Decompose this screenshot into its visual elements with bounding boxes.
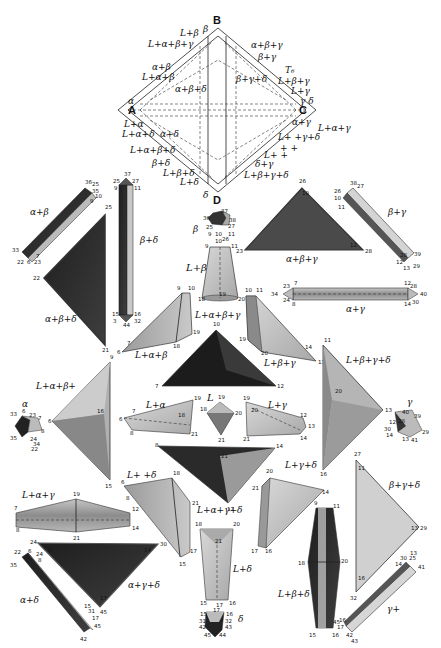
svg-text:32: 32 bbox=[350, 595, 357, 601]
svg-text:9: 9 bbox=[114, 185, 118, 191]
svg-text:11: 11 bbox=[338, 204, 345, 210]
svg-text:L+α: L+α bbox=[145, 400, 166, 410]
svg-text:19: 19 bbox=[194, 395, 201, 401]
svg-text:α+β: α+β bbox=[152, 62, 171, 72]
svg-text:21: 21 bbox=[215, 538, 222, 544]
svg-text:α+β: α+β bbox=[30, 207, 49, 217]
svg-text:L+α+β+γ: L+α+β+γ bbox=[147, 39, 194, 49]
svg-text:30: 30 bbox=[160, 541, 167, 547]
svg-text:14: 14 bbox=[404, 301, 411, 307]
piece-l-alpha-beta-plus: L+α+β+ 96 1615 bbox=[35, 354, 114, 489]
svg-text:21: 21 bbox=[218, 437, 225, 443]
svg-text:14: 14 bbox=[132, 525, 139, 531]
svg-text:28: 28 bbox=[398, 418, 405, 424]
svg-text:7: 7 bbox=[132, 408, 136, 414]
svg-text:8: 8 bbox=[38, 557, 42, 563]
piece-l-gamma: L+γ 1920 1213 1421 bbox=[243, 395, 315, 442]
svg-text:27: 27 bbox=[228, 223, 235, 229]
svg-text:L+β+γ+δ: L+β+γ+δ bbox=[345, 355, 391, 365]
svg-text:21: 21 bbox=[252, 485, 259, 491]
svg-text:19: 19 bbox=[218, 394, 225, 400]
svg-text:40: 40 bbox=[420, 291, 427, 297]
svg-text:25: 25 bbox=[113, 178, 120, 184]
svg-text:15: 15 bbox=[105, 483, 112, 489]
svg-text:8: 8 bbox=[130, 430, 134, 436]
svg-text:10: 10 bbox=[215, 238, 222, 244]
svg-text:L+α+γ: L+α+γ bbox=[317, 123, 351, 133]
svg-text:23: 23 bbox=[283, 283, 290, 289]
svg-text:L+α+β: L+α+β bbox=[134, 350, 167, 360]
svg-text:α+δ: α+δ bbox=[20, 595, 39, 605]
svg-text:20: 20 bbox=[238, 296, 245, 302]
svg-text:18: 18 bbox=[298, 560, 305, 566]
svg-text:3: 3 bbox=[113, 318, 117, 324]
svg-text:34: 34 bbox=[271, 291, 278, 297]
svg-text:20: 20 bbox=[235, 410, 242, 416]
svg-text:7: 7 bbox=[38, 415, 42, 421]
svg-text:25: 25 bbox=[206, 224, 213, 230]
svg-text:9: 9 bbox=[205, 243, 209, 249]
svg-text:14: 14 bbox=[300, 435, 307, 441]
svg-text:15: 15 bbox=[200, 611, 207, 617]
svg-text:γ δ: γ δ bbox=[300, 96, 314, 106]
svg-text:L+α+γ+δ: L+α+γ+δ bbox=[196, 505, 242, 515]
svg-text:26: 26 bbox=[334, 188, 341, 194]
svg-text:37: 37 bbox=[124, 171, 131, 177]
svg-text:20: 20 bbox=[251, 407, 258, 413]
svg-text:α+β+δ: α+β+δ bbox=[45, 314, 77, 324]
svg-text:21: 21 bbox=[102, 347, 109, 353]
svg-text:16: 16 bbox=[320, 471, 327, 477]
svg-text:8: 8 bbox=[41, 428, 45, 434]
svg-text:32: 32 bbox=[134, 318, 141, 324]
svg-text:11: 11 bbox=[324, 337, 331, 343]
svg-text:25: 25 bbox=[92, 181, 99, 187]
piece-l-alpha-gamma-delta: L+α+γ+δ L+δ 1820 21 1517 16 bbox=[195, 505, 252, 608]
corner-b-label: B bbox=[213, 14, 221, 26]
svg-text:16: 16 bbox=[97, 408, 104, 414]
svg-text:22: 22 bbox=[31, 446, 38, 452]
svg-text:18: 18 bbox=[198, 296, 205, 302]
svg-text:16: 16 bbox=[358, 575, 365, 581]
svg-text:27: 27 bbox=[357, 183, 364, 189]
svg-text:13: 13 bbox=[411, 525, 418, 531]
svg-text:17: 17 bbox=[190, 548, 197, 554]
svg-text:β+δ: β+δ bbox=[139, 235, 158, 245]
svg-text:30: 30 bbox=[412, 299, 419, 305]
svg-text:28: 28 bbox=[365, 248, 372, 254]
svg-text:24: 24 bbox=[283, 297, 290, 303]
svg-text:23: 23 bbox=[34, 259, 41, 265]
svg-text:6: 6 bbox=[117, 349, 121, 355]
svg-text:L+β: L+β bbox=[179, 28, 199, 38]
piece-l-alpha-gamma: L+α+γ 719 128 1421 bbox=[14, 490, 139, 541]
svg-text:36: 36 bbox=[203, 215, 210, 221]
piece-delta: δ 1517 1631 3242 4345 44 bbox=[199, 607, 243, 638]
svg-text:L+α+β: L+α+β bbox=[141, 72, 174, 82]
svg-text:β+γ+δ: β+γ+δ bbox=[388, 480, 420, 490]
svg-text:δ: δ bbox=[203, 190, 208, 200]
piece-gamma: γ 4039 1228 3014 1341 29 bbox=[384, 397, 429, 443]
svg-text:L+β+γ+δ: L+β+γ+δ bbox=[243, 170, 289, 180]
svg-text:17: 17 bbox=[92, 615, 99, 621]
svg-text:28: 28 bbox=[410, 283, 417, 289]
svg-text:29: 29 bbox=[420, 525, 427, 531]
svg-text:α+γ: α+γ bbox=[292, 117, 312, 127]
corner-d-label: D bbox=[213, 194, 221, 206]
svg-text:α+β+δ: α+β+δ bbox=[175, 84, 207, 94]
svg-text:14: 14 bbox=[322, 489, 329, 495]
svg-text:42: 42 bbox=[199, 624, 206, 630]
svg-text:16: 16 bbox=[226, 611, 233, 617]
svg-text:15: 15 bbox=[309, 632, 316, 638]
svg-text:14: 14 bbox=[395, 561, 402, 567]
svg-text:29: 29 bbox=[413, 263, 420, 269]
svg-text:26: 26 bbox=[222, 236, 229, 242]
svg-text:10: 10 bbox=[188, 285, 195, 291]
svg-text:L+ +δ: L+ +δ bbox=[126, 470, 156, 480]
svg-text:12: 12 bbox=[396, 259, 403, 265]
svg-text:α+δ: α+δ bbox=[160, 129, 179, 139]
svg-text:29: 29 bbox=[422, 429, 429, 435]
svg-text:L+α+γ: L+α+γ bbox=[21, 490, 55, 500]
svg-text:17: 17 bbox=[337, 624, 344, 630]
svg-text:18: 18 bbox=[173, 470, 180, 476]
svg-text:α: α bbox=[128, 96, 134, 106]
svg-text:8: 8 bbox=[16, 527, 20, 533]
